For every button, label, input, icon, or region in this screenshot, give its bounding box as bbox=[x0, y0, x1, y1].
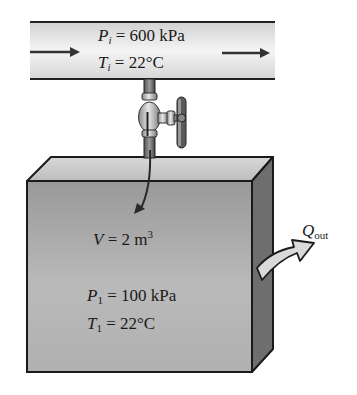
out-subscript: out bbox=[314, 229, 328, 241]
tank-temperature-value: 22°C bbox=[120, 314, 155, 333]
equals: = bbox=[102, 314, 120, 333]
volume-symbol: V bbox=[93, 230, 103, 249]
heat-out-label: Qout bbox=[302, 222, 328, 241]
tank-volume-value: = 2 m bbox=[103, 230, 147, 249]
cubed-superscript: 3 bbox=[147, 228, 153, 240]
supply-pressure-value: 600 kPa bbox=[130, 26, 185, 45]
pressure-symbol: P bbox=[98, 26, 108, 45]
tank-temperature-label: T1 = 22°C bbox=[87, 315, 155, 334]
pressure-symbol: P bbox=[87, 286, 97, 305]
supply-pressure-label: Pi = 600 kPa bbox=[98, 27, 185, 46]
valve bbox=[139, 79, 187, 158]
heat-symbol: Q bbox=[302, 221, 314, 240]
tank-pressure-label: P1 = 100 kPa bbox=[87, 287, 176, 306]
tank-pressure-value: 100 kPa bbox=[121, 286, 176, 305]
equals: = bbox=[103, 286, 121, 305]
supply-temperature-value: 22°C bbox=[129, 53, 164, 72]
tank-charging-diagram bbox=[0, 0, 357, 395]
tank bbox=[27, 157, 273, 372]
tank-volume-label: V = 2 m3 bbox=[93, 229, 153, 248]
supply-temperature-label: Ti = 22°C bbox=[98, 54, 164, 73]
equals: = bbox=[111, 53, 129, 72]
equals: = bbox=[111, 26, 129, 45]
